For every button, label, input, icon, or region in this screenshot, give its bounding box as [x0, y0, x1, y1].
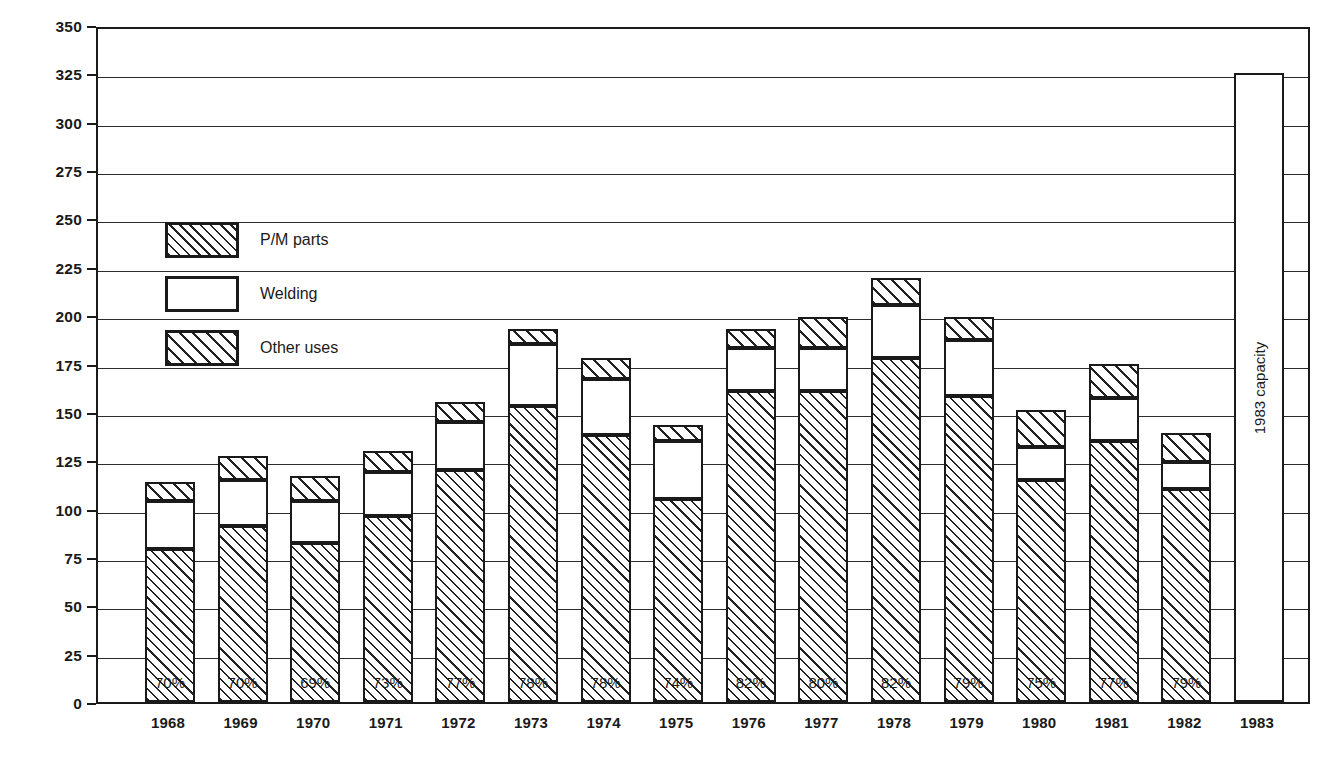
bar-segment-pm-parts: 80%: [798, 391, 848, 702]
stacked-bar: 79%: [1161, 433, 1211, 702]
legend-swatch-icon: [165, 276, 239, 312]
y-tick-label: 175: [56, 357, 82, 375]
bar-segment-pm-parts: 79%: [944, 396, 994, 702]
x-tick-label: 1979: [931, 714, 1003, 731]
bar-segment-pm-parts: 78%: [508, 406, 558, 702]
gridline: [98, 126, 1308, 127]
x-tick-label: 1969: [205, 714, 277, 731]
x-tick-label: 1972: [422, 714, 494, 731]
x-tick-label: 1981: [1076, 714, 1148, 731]
bar-percent-label: 73%: [365, 674, 411, 691]
legend-label: Welding: [255, 284, 323, 304]
legend-swatch-icon: [165, 330, 239, 366]
stacked-bar: 74%: [653, 425, 703, 702]
legend-label: P/M parts: [255, 230, 333, 250]
bar-percent-label: 77%: [1091, 674, 1137, 691]
y-tick-label: 225: [56, 260, 82, 278]
bar-segment-welding: [726, 348, 776, 391]
y-tick-mark: [87, 26, 96, 28]
bar-percent-label: 82%: [873, 674, 919, 691]
bar-percent-label: 78%: [583, 674, 629, 691]
plot-area: 70%70%69%73%77%78%78%74%82%80%82%79%75%7…: [96, 27, 1310, 704]
stacked-bar: 75%: [1016, 410, 1066, 702]
bar-percent-label: 75%: [1018, 674, 1064, 691]
stacked-bar: 73%: [363, 451, 413, 702]
y-tick-label: 250: [56, 211, 82, 229]
x-tick-label: 1975: [640, 714, 712, 731]
x-tick-label: 1970: [277, 714, 349, 731]
y-tick-label: 50: [64, 598, 82, 616]
y-tick-mark: [87, 510, 96, 512]
legend-label: Other uses: [255, 338, 343, 358]
bar-segment-pm-parts: 69%: [290, 543, 340, 702]
bar-segment-pm-parts: 70%: [218, 526, 268, 702]
capacity-bar-label: 1983 capacity: [1251, 341, 1268, 434]
y-tick-label: 300: [56, 115, 82, 133]
stacked-bar: 70%: [145, 482, 195, 703]
stacked-bar: 77%: [1089, 364, 1139, 703]
bar-percent-label: 78%: [510, 674, 556, 691]
y-tick-label: 200: [56, 308, 82, 326]
y-tick-mark: [87, 171, 96, 173]
bar-segment-welding: [1161, 462, 1211, 489]
bar-segment-other-uses: [1016, 410, 1066, 447]
legend-item-p-m-parts[interactable]: P/M parts: [165, 222, 333, 258]
y-tick-label: 100: [56, 502, 82, 520]
bar-segment-other-uses: [726, 329, 776, 348]
bar-percent-label: 74%: [655, 674, 701, 691]
legend-swatch-icon: [165, 222, 239, 258]
stacked-bar: 82%: [871, 278, 921, 702]
stacked-bar: 79%: [944, 317, 994, 702]
bar-percent-label: 79%: [1163, 674, 1209, 691]
y-tick-mark: [87, 655, 96, 657]
x-tick-label: 1977: [785, 714, 857, 731]
bar-percent-label: 80%: [800, 674, 846, 691]
x-tick-label: 1983: [1221, 714, 1293, 731]
legend-item-welding[interactable]: Welding: [165, 276, 323, 312]
stacked-bar: 78%: [581, 358, 631, 702]
bar-segment-pm-parts: 82%: [726, 391, 776, 702]
gridline: [98, 271, 1308, 272]
gridline: [98, 319, 1308, 320]
bar-segment-pm-parts: 77%: [1089, 441, 1139, 702]
bar-segment-other-uses: [145, 482, 195, 501]
bar-segment-pm-parts: 79%: [1161, 489, 1211, 702]
x-tick-label: 1971: [350, 714, 422, 731]
bar-segment-other-uses: [944, 317, 994, 340]
bar-segment-other-uses: [508, 329, 558, 344]
y-tick-mark: [87, 219, 96, 221]
y-tick-mark: [87, 268, 96, 270]
x-tick-label: 1982: [1148, 714, 1220, 731]
y-tick-label: 150: [56, 405, 82, 423]
bar-segment-other-uses: [798, 317, 848, 348]
bar-segment-other-uses: [871, 278, 921, 305]
y-tick-mark: [87, 365, 96, 367]
bar-segment-pm-parts: 75%: [1016, 480, 1066, 702]
stacked-bar: 70%: [218, 456, 268, 702]
y-tick-mark: [87, 558, 96, 560]
y-tick-mark: [87, 74, 96, 76]
y-tick-mark: [87, 461, 96, 463]
bar-segment-pm-parts: 82%: [871, 358, 921, 702]
capacity-bar: 1983 capacity: [1234, 73, 1284, 702]
bar-chart: Thousands of tons (2000 lb) 025507510012…: [0, 0, 1333, 757]
bar-segment-other-uses: [218, 456, 268, 479]
stacked-bar: 82%: [726, 329, 776, 702]
y-tick-mark: [87, 413, 96, 415]
bar-segment-welding: [435, 422, 485, 470]
bar-percent-label: 70%: [220, 674, 266, 691]
bar-segment-welding: [1089, 398, 1139, 441]
y-tick-mark: [87, 606, 96, 608]
legend-item-other-uses[interactable]: Other uses: [165, 330, 343, 366]
bar-percent-label: 79%: [946, 674, 992, 691]
bar-segment-welding: [581, 379, 631, 435]
bar-segment-pm-parts: 77%: [435, 470, 485, 702]
bar-segment-welding: [218, 480, 268, 526]
gridline: [98, 77, 1308, 78]
bar-segment-pm-parts: 73%: [363, 516, 413, 702]
y-tick-label: 0: [73, 695, 82, 713]
stacked-bar: 69%: [290, 476, 340, 702]
bar-segment-other-uses: [581, 358, 631, 379]
bar-segment-welding: [798, 348, 848, 391]
bar-percent-label: 77%: [437, 674, 483, 691]
